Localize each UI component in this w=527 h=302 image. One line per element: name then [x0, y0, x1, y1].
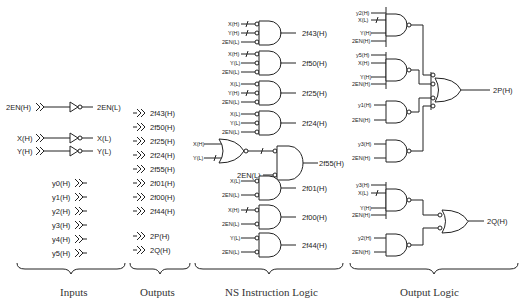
input-connector-icon — [36, 134, 44, 142]
input-label-2en-h: 2EN(H) — [6, 103, 32, 112]
gate-input-label: Y(H) — [228, 30, 239, 36]
input-label-y-h: Y(H) — [17, 147, 33, 156]
gate-input-label: X(H) — [228, 51, 239, 57]
input-label-y1: y1(H) — [52, 193, 71, 202]
gate-input-label: y2(H) — [356, 10, 370, 16]
nand-gate-icon — [386, 59, 407, 81]
output-label-2f43: 2f43(H) — [150, 109, 176, 118]
output-connector-list: 2f43(H) 2f50(H) 2f25(H) 2f24(H) 2f55(H) … — [133, 109, 176, 255]
input-label-x-h: X(H) — [17, 134, 33, 143]
input-label-y3: y3(H) — [52, 221, 71, 230]
output-logic-brace — [350, 263, 518, 274]
gate-output-label: 2f25(H) — [302, 89, 328, 98]
output-connector-icon — [133, 165, 145, 173]
gate-input-label: y2(H) — [358, 235, 372, 241]
output-label-2f25: 2f25(H) — [150, 137, 176, 146]
gate-input-label: X(H) — [228, 21, 239, 27]
gate-output-label: 2f00(H) — [302, 213, 328, 222]
gate-input-label: Y(L) — [230, 235, 241, 241]
nand-gate-q2: y2(H) 2EN(H) — [352, 228, 438, 256]
gate-input-label: X(L) — [230, 111, 241, 117]
gate-input-label: 2EN(H) — [352, 117, 371, 123]
and-gate-icon — [277, 146, 303, 180]
gate-input-label: y1(H) — [358, 102, 372, 108]
gate-input-label: 2EN(H) — [352, 249, 371, 255]
gate-input-label: 2EN(L) — [222, 221, 240, 227]
outputs-brace — [130, 263, 190, 274]
y-signal-list: y0(H) y1(H) y2(H) y3(H) y4(H) y5(H) — [52, 179, 87, 258]
input-label-y4: y4(H) — [52, 235, 71, 244]
gate-input-label: Y(H) — [360, 74, 371, 80]
gate-input-label: 2EN(L) — [222, 99, 240, 105]
output-connector-icon — [133, 193, 145, 201]
gate-input-label: 2EN(L) — [222, 69, 240, 75]
ns-instruction-logic-section: X(H) Y(H) 2EN(L) 2f43(H) X(H) Y(L) 2EN(L… — [193, 21, 345, 298]
output-connector-icon — [133, 151, 145, 159]
output-label-2f50: 2f50(H) — [150, 123, 176, 132]
or-gate-icon — [442, 210, 468, 233]
gate-output-label: 2f01(H) — [302, 184, 328, 193]
gate-output-label: 2P(H) — [493, 86, 513, 95]
output-connector-icon — [133, 246, 145, 254]
input-connector-icon — [75, 235, 87, 243]
gate-input-label: X(H) — [228, 207, 239, 213]
gate-input-label: Y(H) — [360, 205, 371, 211]
ns-logic-caption: NS Instruction Logic — [225, 286, 318, 298]
output-label-2q: 2Q(H) — [150, 246, 171, 255]
output-logic-section: y2(H) X(L) Y(H) 2EN(H) y5(H) X(H) Y(H) 2… — [350, 7, 518, 298]
output-label-2f55: 2f55(H) — [150, 165, 176, 174]
and-gate-icon — [259, 111, 281, 135]
gate-output-label: 2f55(H) — [319, 159, 345, 168]
ns-logic-brace — [195, 263, 343, 274]
gate-input-label: 2EN(H) — [352, 155, 371, 161]
gate-input-label: y3(H) — [356, 182, 370, 188]
input-label-y0: y0(H) — [52, 179, 71, 188]
input-connector-icon — [75, 179, 87, 187]
and-gate-2f44: Y(L) 2EN(L) 2f44(H) — [222, 233, 328, 257]
inverter-icon — [70, 102, 78, 112]
output-label-2p: 2P(H) — [150, 232, 170, 241]
gate-input-label: 2EN(L) — [222, 249, 240, 255]
nand-gate-icon — [386, 189, 407, 211]
input-connector-icon — [75, 207, 87, 215]
nand-gate-icon — [386, 140, 407, 162]
gate-output-label: 2f24(H) — [302, 119, 328, 128]
input-connector-icon — [75, 249, 87, 257]
gate-input-label: X(H) — [193, 141, 204, 147]
gate-input-label: X(L) — [358, 17, 369, 23]
inverter-icon — [70, 146, 78, 156]
nand-gate-p2: y5(H) X(H) Y(H) 2EN(H) — [352, 52, 431, 89]
and-gate-2f25: X(L) Y(H) 2EN(L) 2f25(H) — [222, 81, 328, 105]
nor-and-gate-2f55: X(H) Y(L) 2EN(L) 2f55(H) — [193, 139, 345, 180]
gate-input-label: 2EN(L) — [222, 129, 240, 135]
and-gate-icon — [259, 233, 281, 257]
input-connector-icon — [36, 147, 44, 155]
output-connector-icon — [133, 207, 145, 215]
output-label-2f24: 2f24(H) — [150, 151, 176, 160]
output-label-x-l: X(L) — [97, 134, 112, 143]
gate-input-label: 2EN(L) — [222, 39, 240, 45]
inputs-brace — [17, 263, 125, 274]
nor-gate-icon — [219, 139, 244, 163]
output-logic-caption: Output Logic — [400, 286, 459, 298]
outputs-section: 2f43(H) 2f50(H) 2f25(H) 2f24(H) 2f55(H) … — [130, 109, 190, 298]
gate-input-label: X(H) — [358, 60, 369, 66]
and-gate-2f43: X(H) Y(H) 2EN(L) 2f43(H) — [222, 21, 328, 45]
nand-gate-p3: y1(H) 2EN(H) — [352, 98, 431, 123]
outputs-caption: Outputs — [140, 286, 175, 298]
and-gate-icon — [259, 205, 281, 229]
gate-input-label: Y(H) — [360, 30, 371, 36]
input-connector-icon — [36, 103, 44, 111]
gate-output-label: 2Q(H) — [487, 217, 508, 226]
or-gate-2q: 2Q(H) — [438, 210, 508, 233]
and-gate-icon — [259, 176, 281, 200]
input-connector-icon — [75, 193, 87, 201]
nand-gate-icon — [386, 14, 407, 36]
gate-output-label: 2f43(H) — [302, 29, 328, 38]
gate-input-label: Y(L) — [230, 120, 241, 126]
output-label-2f44: 2f44(H) — [150, 207, 176, 216]
and-gate-2f24: X(L) Y(L) 2EN(L) 2f24(H) — [222, 111, 328, 135]
output-label-2en-l: 2EN(L) — [97, 103, 121, 112]
logic-diagram: 2EN(H) 2EN(L) X(H) X(L) Y(H) Y(L) y0(H) … — [0, 0, 527, 302]
gate-input-label: 2EN(H) — [352, 212, 371, 218]
